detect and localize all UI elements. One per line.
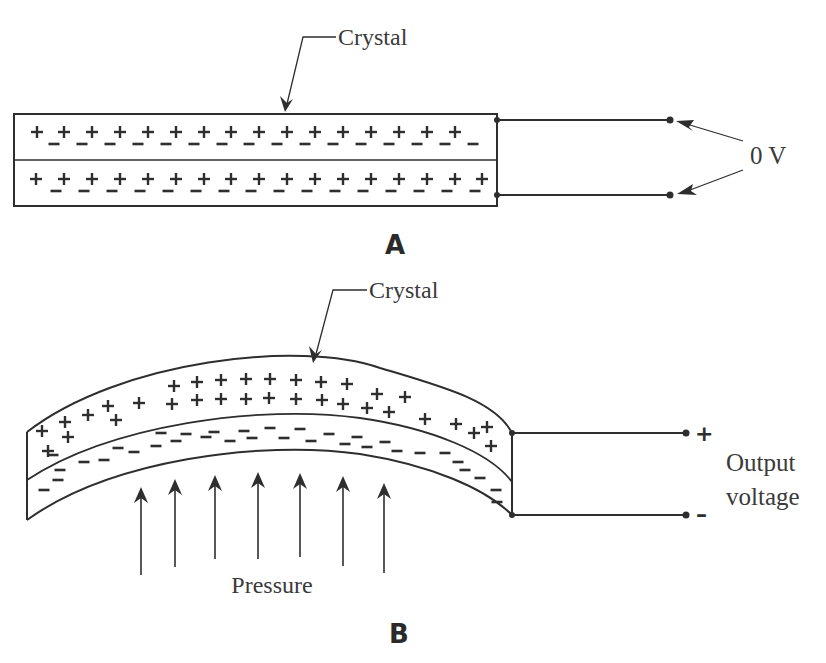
plus-charge-icon xyxy=(133,397,145,409)
crystal-label-b: Crystal xyxy=(369,277,439,303)
top-layer-charges xyxy=(31,126,479,144)
junction-dot xyxy=(509,512,515,518)
plus-charge-icon xyxy=(485,440,497,452)
plus-charge-icon xyxy=(198,126,210,138)
plus-charge-icon xyxy=(383,406,395,418)
panel-label-a: A xyxy=(385,230,405,260)
plus-charge-icon xyxy=(168,380,180,392)
voltage-callout-a: 0 V xyxy=(676,120,786,195)
panel-a: Crystal 0 V A xyxy=(14,24,786,260)
plus-charge-icon xyxy=(198,173,210,185)
up-arrow-icon xyxy=(293,473,307,557)
up-arrow-icon xyxy=(336,476,350,566)
plus-charge-icon xyxy=(337,173,349,185)
plus-charge-icon xyxy=(450,418,462,430)
plus-charge-icon xyxy=(170,173,182,185)
plus-charge-icon xyxy=(253,173,265,185)
output-label-line2: voltage xyxy=(726,483,800,510)
plus-charge-icon xyxy=(315,376,327,388)
plus-charge-icon xyxy=(290,393,302,405)
junction-dot xyxy=(494,117,500,123)
crystal-callout-b: Crystal xyxy=(309,277,439,363)
plus-charge-icon xyxy=(240,373,252,385)
junction-dot xyxy=(509,430,515,436)
plus-charge-icon xyxy=(341,378,353,390)
up-arrow-icon xyxy=(134,487,148,575)
leader-line-icon xyxy=(316,290,367,354)
piezoelectric-diagram: Crystal 0 V A xyxy=(0,0,826,663)
voltage-label: 0 V xyxy=(750,142,786,169)
bent-crystal xyxy=(27,356,512,520)
plus-charge-icon xyxy=(253,126,265,138)
plus-charge-icon xyxy=(86,173,98,185)
arrow-icon xyxy=(280,96,293,112)
plus-charge-icon xyxy=(58,126,70,138)
plus-charge-icon xyxy=(31,126,43,138)
bottom-layer-charges xyxy=(30,173,488,191)
plus-charge-icon xyxy=(215,374,227,386)
leads-a xyxy=(494,117,674,199)
plus-charge-icon xyxy=(365,126,377,138)
up-arrow-icon xyxy=(251,472,265,559)
up-arrow-icon xyxy=(168,479,182,567)
arrow-icon xyxy=(677,184,697,195)
plus-charge-icon xyxy=(30,173,42,185)
leads-b: + – xyxy=(509,421,713,527)
plus-charge-icon xyxy=(215,393,227,405)
plus-charge-icon xyxy=(166,398,178,410)
junction-dot xyxy=(494,192,500,198)
plus-charge-icon xyxy=(114,126,126,138)
plus-charge-icon xyxy=(371,388,383,400)
arrow-icon xyxy=(309,346,322,363)
plus-charge-icon xyxy=(264,373,276,385)
output-label-line1: Output xyxy=(726,449,796,476)
plus-charge-icon xyxy=(290,374,302,386)
plus-charge-icon xyxy=(468,427,480,439)
plus-charge-icon xyxy=(191,394,203,406)
plus-charge-icon xyxy=(142,173,154,185)
plus-charge-icon xyxy=(281,173,293,185)
plus-charge-icon xyxy=(393,173,405,185)
plus-charge-icon xyxy=(102,400,114,412)
plus-charge-icon xyxy=(419,413,431,425)
flat-crystal xyxy=(14,114,497,206)
plus-charge-icon xyxy=(316,394,328,406)
plus-charge-icon xyxy=(62,431,74,443)
plus-charge-icon xyxy=(86,126,98,138)
plus-charge-icon xyxy=(337,126,349,138)
crystal-middle-edge xyxy=(27,414,512,482)
crystal-callout-a: Crystal xyxy=(280,24,408,112)
crystal-label-a: Crystal xyxy=(338,24,408,50)
plus-charge-icon xyxy=(58,173,70,185)
plus-charge-icon xyxy=(59,416,71,428)
plus-charge-icon xyxy=(240,393,252,405)
plus-charge-icon xyxy=(449,173,461,185)
plus-charge-icon xyxy=(365,173,377,185)
negative-terminal-sign: – xyxy=(696,502,707,527)
plus-charge-icon xyxy=(361,402,373,414)
plus-charge-icon xyxy=(110,414,122,426)
plus-charge-icon xyxy=(421,126,433,138)
terminal-dot xyxy=(683,430,690,437)
pressure-label: Pressure xyxy=(231,572,312,598)
plus-charge-icon xyxy=(142,126,154,138)
plus-charge-icon xyxy=(191,376,203,388)
plus-charge-icon xyxy=(114,173,126,185)
leader-line-icon xyxy=(287,37,336,104)
terminal-dot xyxy=(667,117,674,124)
plus-charge-icon xyxy=(476,173,488,185)
terminal-dot xyxy=(683,512,690,519)
plus-charge-icon xyxy=(481,421,493,433)
plus-charge-icon xyxy=(82,409,94,421)
plus-charge-icon xyxy=(263,392,275,404)
positive-terminal-sign: + xyxy=(695,421,713,446)
pressure-arrows xyxy=(134,472,391,575)
up-arrow-icon xyxy=(208,475,222,559)
plus-charge-icon xyxy=(449,126,461,138)
up-arrow-icon xyxy=(377,483,391,573)
plus-charge-icon xyxy=(421,173,433,185)
plus-charge-icon xyxy=(225,126,237,138)
negative-charges xyxy=(39,428,503,502)
panel-b: Crystal + – Output voltage Pressure xyxy=(27,277,800,649)
plus-charge-icon xyxy=(170,126,182,138)
